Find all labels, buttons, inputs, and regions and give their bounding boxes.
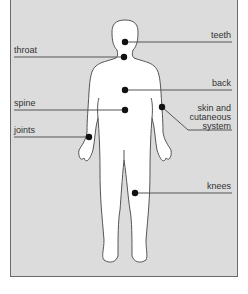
label-joints: joints: [14, 126, 35, 135]
skin-dot: [159, 104, 165, 110]
knees-dot: [132, 190, 138, 196]
joints-dot: [86, 134, 92, 140]
label-spine: spine: [14, 99, 36, 108]
throat-dot: [121, 54, 127, 60]
spine-dot: [122, 107, 128, 113]
label-skin-line3: system: [202, 122, 231, 131]
teeth-dot: [122, 39, 128, 45]
back-dot: [122, 87, 128, 93]
label-teeth: teeth: [211, 31, 231, 40]
label-knees: knees: [207, 182, 231, 191]
human-body-figure: [0, 0, 248, 294]
label-throat: throat: [14, 46, 37, 55]
label-back: back: [212, 79, 231, 88]
